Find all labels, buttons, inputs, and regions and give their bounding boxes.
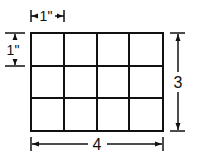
arrow-down-icon <box>13 59 18 65</box>
total-width-label: 4 <box>93 136 102 153</box>
cell-width-label: 1" <box>40 8 53 24</box>
arrow-left-icon <box>32 14 38 19</box>
arrow-left-icon <box>32 142 39 147</box>
arrow-up-icon <box>13 34 18 40</box>
arrow-down-icon <box>176 123 181 130</box>
grid <box>31 33 163 131</box>
cell-height-label: 1" <box>7 42 20 58</box>
arrow-right-icon <box>57 14 63 19</box>
total-height-label: 3 <box>174 74 183 91</box>
arrow-right-icon <box>155 142 162 147</box>
arrow-up-icon <box>176 34 181 41</box>
grid-diagram: 1" 1" 3 4 <box>0 0 197 164</box>
